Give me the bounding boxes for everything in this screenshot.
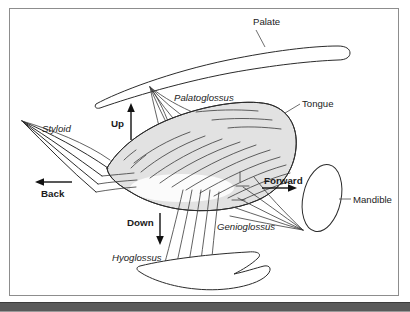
back-arrow xyxy=(35,178,72,186)
label-genioglossus: Genioglossus xyxy=(217,221,275,232)
label-up: Up xyxy=(111,118,124,129)
tongue-body xyxy=(107,102,296,210)
label-back: Back xyxy=(41,188,65,199)
label-forward: Forward xyxy=(264,175,303,186)
up-arrow xyxy=(127,103,135,140)
label-hyoglossus: Hyoglossus xyxy=(112,252,162,263)
label-styloid: Styloid xyxy=(42,123,71,134)
tongue-leader-line xyxy=(285,104,300,113)
label-palate: Palate xyxy=(253,16,280,27)
label-tongue: Tongue xyxy=(302,98,333,109)
label-palatoglossus: Palatoglossus xyxy=(174,92,234,103)
anatomy-diagram: Palate Tongue Mandible Palatoglossus Sty… xyxy=(0,0,410,312)
bottom-divider-bar xyxy=(0,302,410,312)
label-mandible: Mandible xyxy=(353,194,392,205)
figure-root: Palate Tongue Mandible Palatoglossus Sty… xyxy=(0,0,410,312)
down-arrow xyxy=(156,213,164,245)
label-down: Down xyxy=(127,217,154,228)
palate-leader-line xyxy=(256,30,265,47)
mandible-shape xyxy=(296,161,347,235)
